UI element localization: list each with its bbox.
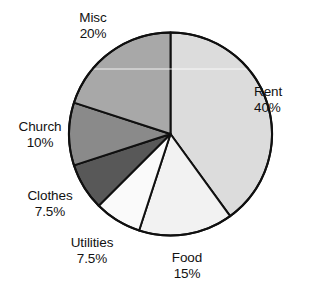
slice-label-rent-name: Rent	[254, 84, 302, 100]
slice-label-misc-value: 20%	[66, 26, 120, 42]
slice-label-church: Church 10%	[8, 119, 72, 150]
slice-label-rent-value: 40%	[254, 100, 302, 116]
slice-label-utilities: Utilities 7.5%	[55, 235, 129, 266]
slice-label-misc: Misc 20%	[66, 10, 120, 41]
slice-label-church-name: Church	[8, 119, 72, 135]
slice-label-clothes: Clothes 7.5%	[18, 188, 82, 219]
slice-label-church-value: 10%	[8, 135, 72, 151]
pie-slices-group	[69, 33, 272, 236]
slice-label-food: Food 15%	[160, 250, 214, 281]
slice-label-misc-name: Misc	[66, 10, 120, 26]
slice-label-utilities-value: 7.5%	[55, 251, 129, 267]
slice-label-clothes-name: Clothes	[18, 188, 82, 204]
pie-chart-canvas	[0, 0, 310, 304]
slice-label-food-name: Food	[160, 250, 214, 266]
slice-label-food-value: 15%	[160, 266, 214, 282]
slice-label-rent: Rent 40%	[254, 84, 302, 115]
pie-chart: Misc 20% Rent 40% Church 10% Clothes 7.5…	[0, 0, 310, 304]
slice-label-utilities-name: Utilities	[55, 235, 129, 251]
slice-label-clothes-value: 7.5%	[18, 204, 82, 220]
